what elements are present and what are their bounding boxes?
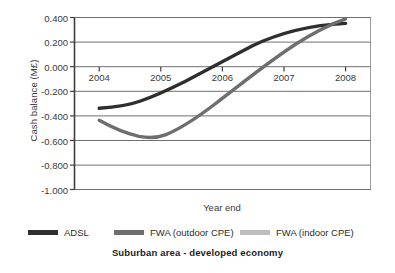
x-axis-ticks bbox=[99, 67, 345, 72]
legend-label: ADSL bbox=[64, 227, 89, 238]
legend-swatch-icon bbox=[28, 230, 58, 235]
legend-entry-adsl: ADSL bbox=[28, 225, 89, 240]
y-tick-label: -0.600 bbox=[22, 135, 68, 146]
y-tick-label: 0.000 bbox=[22, 61, 68, 72]
legend-label: FWA (indoor CPE) bbox=[276, 227, 354, 238]
legend-swatch-icon bbox=[240, 230, 270, 235]
y-tick-label: -1.000 bbox=[22, 184, 68, 195]
gridlines-horizontal bbox=[75, 18, 371, 190]
y-tick-label: -0.400 bbox=[22, 110, 68, 121]
legend-entry-fwa-outdoor: FWA (outdoor CPE) bbox=[114, 225, 234, 240]
y-tick-label: -0.800 bbox=[22, 160, 68, 171]
chart-frame bbox=[75, 18, 371, 190]
x-tick-label: 2007 bbox=[273, 72, 294, 83]
y-tick-label: 0.200 bbox=[22, 37, 68, 48]
x-axis-title: Year end bbox=[74, 202, 370, 213]
y-axis-tick-labels: 0.400 0.200 0.000 -0.200 -0.400 -0.600 -… bbox=[22, 10, 68, 190]
legend-label: FWA (outdoor CPE) bbox=[150, 227, 234, 238]
y-tick-label: 0.400 bbox=[22, 12, 68, 23]
y-tick-label: -0.200 bbox=[22, 86, 68, 97]
x-tick-label: 2004 bbox=[89, 72, 110, 83]
chart-figure: Cash balance (M£) 0.400 0.200 0.000 -0.2… bbox=[0, 0, 395, 273]
chart-legend: ADSL FWA (outdoor CPE) FWA (indoor CPE) bbox=[0, 225, 395, 240]
x-tick-label: 2005 bbox=[150, 72, 171, 83]
x-tick-label: 2006 bbox=[212, 72, 233, 83]
chart-title: Suburban area - developed economy bbox=[0, 247, 395, 258]
x-axis-tick-labels: 2004 2005 2006 2007 2008 bbox=[74, 72, 370, 86]
legend-swatch-icon bbox=[114, 230, 144, 235]
x-tick-label: 2008 bbox=[335, 72, 356, 83]
legend-entry-fwa-indoor: FWA (indoor CPE) bbox=[240, 225, 354, 240]
